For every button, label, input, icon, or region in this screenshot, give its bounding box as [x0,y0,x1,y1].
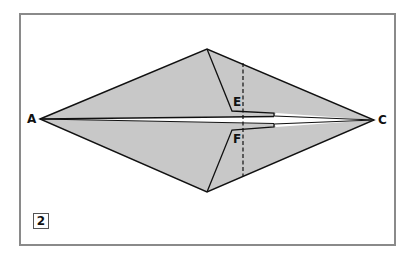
origami-diagram [0,0,413,258]
label-c: C [378,114,387,126]
step-number-badge: 2 [33,213,49,229]
label-a: A [27,113,36,125]
label-f: F [233,133,241,145]
label-e: E [233,96,241,108]
